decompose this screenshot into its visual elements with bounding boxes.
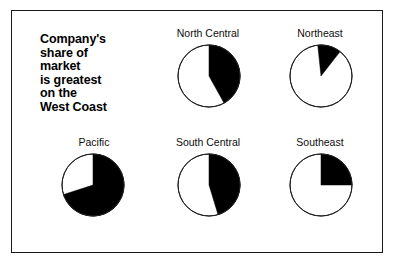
figure-canvas: Company's share of market is greatest on… <box>0 0 397 265</box>
pie-panel-north-central: North Central <box>152 27 264 131</box>
pie-title-south-central: South Central <box>152 136 264 148</box>
headline-line-4: is greatest <box>40 74 150 88</box>
headline-line-2: share of <box>40 47 150 61</box>
pie-chart-south-central <box>176 152 242 218</box>
headline-line-1: Company's <box>40 33 150 47</box>
headline-text: Company's share of market is greatest on… <box>40 33 150 115</box>
pie-title-pacific: Pacific <box>38 136 150 148</box>
pie-panel-south-central: South Central <box>152 136 264 240</box>
headline-line-3: market <box>40 60 150 74</box>
pie-chart-southeast <box>288 152 354 218</box>
figure-frame: Company's share of market is greatest on… <box>11 10 383 253</box>
pie-panel-pacific: Pacific <box>38 136 150 240</box>
pie-panel-southeast: Southeast <box>264 136 376 240</box>
pie-chart-northeast <box>288 43 354 109</box>
pie-title-northeast: Northeast <box>264 27 376 39</box>
pie-title-north-central: North Central <box>152 27 264 39</box>
pie-chart-pacific <box>60 152 126 218</box>
headline-line-6: West Coast <box>40 101 150 115</box>
headline-line-5: on the <box>40 87 150 101</box>
pie-chart-north-central <box>176 43 242 109</box>
pie-title-southeast: Southeast <box>264 136 376 148</box>
pie-panel-northeast: Northeast <box>264 27 376 131</box>
